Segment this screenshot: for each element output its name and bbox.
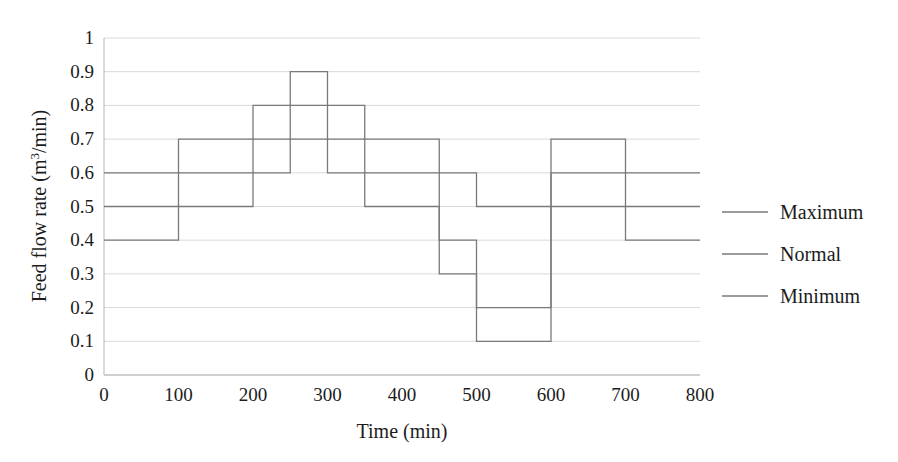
chart-background (0, 0, 898, 462)
y-tick-label: 0.9 (70, 61, 94, 82)
y-tick-labels: 00.10.20.30.40.50.60.70.80.91 (70, 27, 94, 385)
x-tick-labels: 0100200300400500600700800 (99, 384, 714, 405)
x-tick-label: 200 (239, 384, 268, 405)
legend-label-normal: Normal (780, 243, 842, 265)
x-axis-title: Time (min) (357, 420, 448, 443)
y-tick-label: 0.7 (70, 128, 94, 149)
y-tick-label: 1 (85, 27, 95, 48)
x-tick-label: 100 (164, 384, 193, 405)
y-tick-label: 0.4 (70, 229, 94, 250)
x-tick-label: 0 (99, 384, 109, 405)
x-tick-label: 500 (462, 384, 491, 405)
y-tick-label: 0.6 (70, 162, 94, 183)
x-tick-label: 600 (537, 384, 566, 405)
y-tick-label: 0.3 (70, 263, 94, 284)
y-tick-label: 0.8 (70, 94, 94, 115)
y-axis-title-prefix: Feed flow rate (m (28, 159, 51, 302)
step-chart: 00.10.20.30.40.50.60.70.80.91 0100200300… (0, 0, 898, 462)
x-tick-label: 400 (388, 384, 417, 405)
x-tick-label: 300 (313, 384, 342, 405)
chart-figure: 00.10.20.30.40.50.60.70.80.91 0100200300… (0, 0, 898, 462)
y-tick-label: 0.2 (70, 297, 94, 318)
y-axis-title: Feed flow rate (m3/min) (27, 110, 51, 303)
x-tick-label: 700 (611, 384, 640, 405)
y-tick-label: 0.1 (70, 330, 94, 351)
legend-label-minimum: Minimum (780, 285, 860, 307)
legend-label-maximum: Maximum (780, 201, 864, 223)
y-tick-label: 0 (85, 364, 95, 385)
y-tick-label: 0.5 (70, 196, 94, 217)
x-tick-label: 800 (686, 384, 715, 405)
y-axis-title-suffix: /min) (28, 110, 51, 153)
